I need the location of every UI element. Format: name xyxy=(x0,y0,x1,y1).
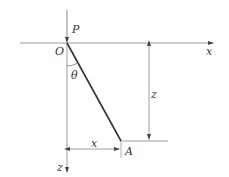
label-x-dimension: x xyxy=(91,137,98,150)
label-origin-o: O xyxy=(55,45,64,58)
angle-arc xyxy=(67,63,78,66)
label-x-axis: x xyxy=(206,45,213,58)
label-point-a: A xyxy=(124,145,133,158)
label-angle-theta: θ xyxy=(71,69,78,82)
label-force-p: P xyxy=(71,23,80,36)
member-oa xyxy=(67,43,121,141)
label-z-axis: z xyxy=(56,161,63,174)
label-z-dimension: z xyxy=(150,88,157,101)
diagram-canvas: P O θ x z z x A xyxy=(0,0,229,177)
diagram-svg: P O θ x z z x A xyxy=(0,0,229,177)
